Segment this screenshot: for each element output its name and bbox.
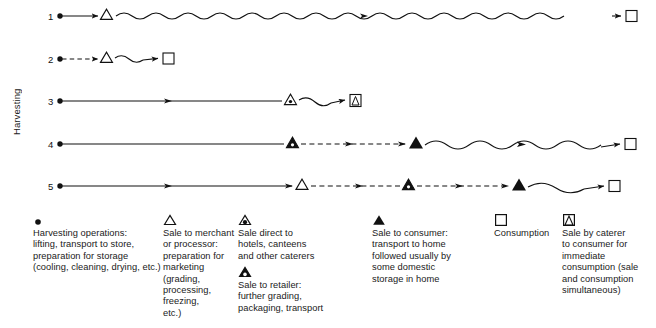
harvesting-dot	[57, 141, 62, 146]
open-triangle	[101, 52, 113, 62]
triangle-dot-filled-center	[407, 185, 410, 188]
legend-text: Sale to merchant or processor: preparati…	[163, 228, 235, 319]
row-number-4: 4	[48, 139, 53, 150]
legend-item-hotels: Sale direct to hotels, canteens and othe…	[238, 213, 318, 262]
mid-arrowhead	[455, 184, 463, 189]
wavy-link	[299, 98, 331, 106]
legend-text: Sale to retailer: further grading, packa…	[238, 280, 330, 314]
filled-triangle	[512, 179, 526, 191]
chain-row-5: 5	[48, 179, 620, 193]
square	[609, 181, 620, 192]
wavy-arrow	[425, 141, 601, 149]
harvesting-dot	[57, 98, 62, 103]
harvesting-dot	[57, 13, 62, 18]
legend-text: Sale to consumer: transport to home foll…	[372, 228, 460, 285]
wavy-end-arrow	[143, 58, 158, 60]
legend-item-caterer: Sale by caterer to consumer for immediat…	[562, 213, 648, 296]
square-triangle-inner	[352, 97, 359, 106]
legend-text: Sale direct to hotels, canteens and othe…	[238, 228, 318, 262]
legend-text: Consumption	[494, 228, 564, 239]
wavy-end-arrow	[584, 186, 604, 189]
triangle-dot-filled-center	[291, 143, 294, 146]
legend-item-merchant: Sale to merchant or processor: preparati…	[163, 213, 235, 319]
wavy-link	[115, 56, 143, 63]
square	[626, 11, 637, 22]
chain-row-2: 2	[48, 52, 174, 64]
harvesting-dot-icon	[33, 213, 183, 227]
triangle-dot-icon	[238, 213, 318, 227]
chain-row-3: 3	[48, 94, 361, 106]
filled-triangle-icon	[372, 213, 460, 227]
legend-text: Sale by caterer to consumer for immediat…	[562, 228, 648, 296]
wavy-mid-arrowhead	[360, 14, 368, 19]
legend: Harvesting operations: lifting, transpor…	[0, 213, 656, 328]
open-triangle	[296, 179, 308, 189]
wavy-arrow	[116, 13, 564, 19]
square-triangle-icon	[562, 213, 648, 227]
food-chain-diagram: Harvesting 1 2	[0, 0, 656, 328]
row-number-3: 3	[48, 96, 53, 107]
flow-chart-svg: 1 2 3	[0, 0, 656, 215]
wavy-mid-arrowhead	[517, 141, 526, 147]
harvesting-dot	[57, 56, 62, 61]
triangle-dot-center	[289, 100, 292, 103]
legend-item-consumption: Consumption	[494, 213, 564, 239]
square-icon	[494, 213, 564, 227]
legend-item-consumer: Sale to consumer: transport to home foll…	[372, 213, 460, 285]
filled-triangle	[409, 137, 423, 149]
end-arrowhead	[398, 142, 406, 147]
row-number-2: 2	[48, 54, 53, 65]
row-number-1: 1	[48, 11, 53, 22]
row-number-5: 5	[48, 181, 53, 192]
chain-row-4: 4	[48, 137, 636, 150]
square	[163, 53, 174, 64]
legend-item-retailer: Sale to retailer: further grading, packa…	[238, 265, 330, 314]
wavy-end-arrow	[601, 144, 620, 147]
chain-row-1: 1	[48, 9, 637, 21]
wavy-end-arrow	[331, 100, 345, 103]
open-triangle	[101, 9, 113, 19]
square	[625, 139, 636, 150]
legend-item-harvesting: Harvesting operations: lifting, transpor…	[33, 213, 183, 274]
legend-text: Harvesting operations: lifting, transpor…	[33, 228, 183, 274]
triangle-dot-filled-icon	[238, 265, 330, 279]
harvesting-dot	[57, 183, 62, 188]
open-triangle-icon	[163, 213, 235, 227]
wavy-link	[528, 183, 584, 193]
